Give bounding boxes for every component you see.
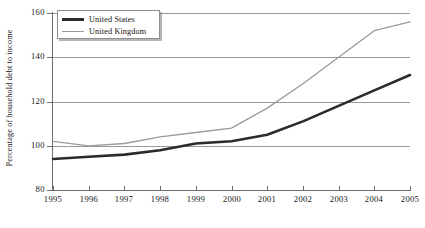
series-line-united-kingdom (53, 22, 410, 146)
legend: United States United Kingdom (57, 10, 160, 39)
line-chart: Percentage of household debt to income 8… (0, 0, 425, 228)
legend-label-united-kingdom: United Kingdom (89, 27, 146, 36)
legend-item-united-states: United States (62, 13, 155, 25)
legend-label-united-states: United States (89, 15, 135, 24)
legend-item-united-kingdom: United Kingdom (62, 25, 155, 37)
series-line-united-states (53, 75, 410, 159)
legend-swatch-united-kingdom (62, 31, 84, 32)
legend-swatch-united-states (62, 18, 84, 21)
